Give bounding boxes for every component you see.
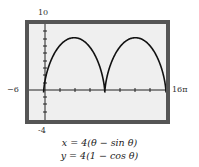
y-max-label: 10 [38,9,48,17]
x-min-label: −6 [7,86,19,94]
x-max-label: 16π [172,86,187,94]
y-min-label: -4 [38,127,46,135]
equation-y: y = 4(1 − cos θ) [0,150,199,161]
plot-area [29,24,166,120]
equation-x: x = 4(θ − sin θ) [0,137,199,148]
cycloid-curve [44,38,166,93]
